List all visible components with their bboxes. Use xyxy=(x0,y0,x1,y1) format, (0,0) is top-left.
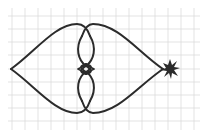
star-burst-icon xyxy=(160,59,180,79)
diagram-svg xyxy=(0,0,204,135)
curve-shape xyxy=(11,24,163,113)
grid-diagram xyxy=(0,0,204,135)
